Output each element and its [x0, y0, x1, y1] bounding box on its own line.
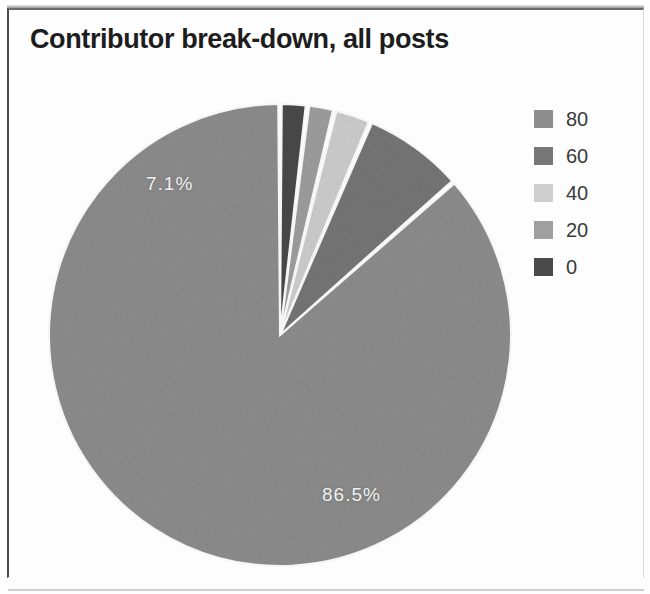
page-bottom-rule — [8, 589, 644, 591]
legend-item[interactable]: 80 — [534, 100, 634, 137]
legend-item-label: 0 — [566, 257, 577, 277]
legend-swatch-icon — [534, 147, 553, 165]
legend-swatch-icon — [534, 258, 553, 276]
legend-item-label: 80 — [566, 109, 588, 129]
legend-item[interactable]: 20 — [534, 211, 634, 248]
pie-label-minor: 7.1% — [146, 173, 193, 195]
legend-swatch-icon — [534, 110, 553, 128]
legend-item-label: 20 — [566, 220, 588, 240]
figure-page: Contributor break-down, all posts 86.5% … — [0, 0, 650, 594]
legend-item-label: 40 — [566, 183, 588, 203]
pie-label-major: 86.5% — [322, 484, 381, 506]
pie-slice-group — [49, 104, 511, 566]
legend-swatch-icon — [534, 184, 553, 202]
legend-swatch-icon — [534, 221, 553, 239]
legend-item[interactable]: 0 — [534, 248, 634, 285]
legend-item[interactable]: 40 — [534, 174, 634, 211]
legend-item[interactable]: 60 — [534, 137, 634, 174]
pie-chart: 86.5% 7.1% — [0, 0, 650, 594]
legend: 80 60 40 20 0 — [534, 100, 634, 285]
legend-item-label: 60 — [566, 146, 588, 166]
